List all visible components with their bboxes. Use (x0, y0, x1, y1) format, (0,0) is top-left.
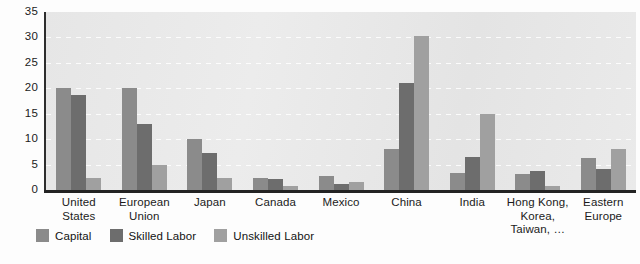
legend-swatch-icon-capital (36, 229, 49, 242)
bar-capital (581, 158, 596, 190)
y-axis-tick-35: 35 (25, 6, 38, 18)
bar-group (374, 12, 440, 190)
bar-skilled (71, 95, 86, 190)
bar-capital (384, 149, 399, 190)
bar-unskilled (217, 178, 232, 190)
bar-group (571, 12, 637, 190)
bar-skilled (399, 83, 414, 190)
y-axis-tick-0: 0 (31, 184, 38, 196)
bar-skilled (530, 171, 545, 190)
y-axis-tick-15: 15 (25, 108, 38, 120)
chart-legend: CapitalSkilled LaborUnskilled Labor (36, 229, 332, 242)
legend-swatch-icon-unskilled (214, 229, 227, 242)
y-axis-tick-20: 20 (25, 83, 38, 95)
bar-group (308, 12, 374, 190)
legend-swatch-icon-skilled (110, 229, 123, 242)
bar-group (177, 12, 243, 190)
bar-group (243, 12, 309, 190)
x-axis-label: India (439, 196, 505, 237)
y-axis-tick-30: 30 (25, 32, 38, 44)
bar-group (46, 12, 112, 190)
bar-unskilled (349, 182, 364, 190)
bar-skilled (202, 153, 217, 190)
bar-group (112, 12, 178, 190)
bar-capital (56, 88, 71, 190)
bar-capital (122, 88, 137, 190)
bar-unskilled (86, 178, 101, 190)
x-axis-label: Hong Kong,Korea,Taiwan, … (505, 196, 571, 237)
bar-capital (515, 174, 530, 190)
legend-label: Skilled Labor (129, 230, 197, 242)
bar-skilled (268, 179, 283, 190)
bar-capital (253, 178, 268, 190)
x-axis-line (44, 190, 636, 193)
bar-groups (46, 12, 636, 190)
x-axis-label: EasternEurope (571, 196, 637, 237)
bar-skilled (137, 124, 152, 190)
bar-chart-figure: 35302520151050 UnitedStatesEuropeanUnion… (0, 0, 640, 264)
y-axis-tick-5: 5 (31, 159, 38, 171)
y-axis-tick-25: 25 (25, 57, 38, 69)
bar-capital (319, 176, 334, 190)
legend-item-skilled: Skilled Labor (110, 229, 197, 242)
plot-area (46, 12, 636, 190)
bar-skilled (465, 157, 480, 190)
y-axis-tick-10: 10 (25, 133, 38, 145)
bar-group (439, 12, 505, 190)
y-axis-tick-labels: 35302520151050 (0, 0, 42, 192)
bar-unskilled (611, 149, 626, 190)
legend-label: Unskilled Labor (233, 230, 314, 242)
bar-capital (450, 173, 465, 190)
x-axis-label: China (374, 196, 440, 237)
bar-skilled (596, 169, 611, 190)
legend-item-unskilled: Unskilled Labor (214, 229, 314, 242)
bar-group (505, 12, 571, 190)
bar-unskilled (152, 165, 167, 190)
legend-item-capital: Capital (36, 229, 92, 242)
legend-label: Capital (55, 230, 92, 242)
bar-unskilled (414, 36, 429, 190)
bar-unskilled (480, 114, 495, 190)
bar-capital (187, 139, 202, 190)
